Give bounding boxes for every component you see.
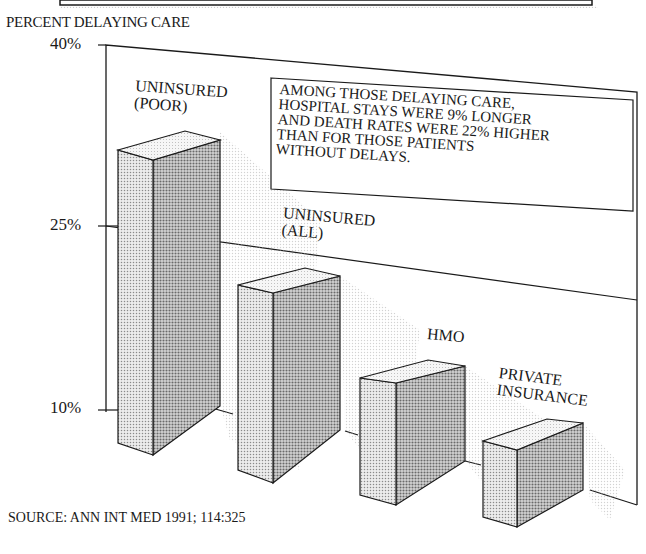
top-frame-remnant: [60, 0, 598, 8]
y-tick-10: 10%: [50, 398, 81, 418]
category-label-hmo: HMO: [427, 325, 466, 345]
category-label-uninsured-poor: UNINSURED (POOR): [134, 77, 229, 117]
y-axis-title: PERCENT DELAYING CARE: [6, 14, 190, 31]
y-tick-40: 40%: [50, 34, 81, 54]
y-tick-25: 25%: [50, 215, 81, 235]
source-citation: SOURCE: ANN INT MED 1991; 114:325: [8, 510, 246, 526]
